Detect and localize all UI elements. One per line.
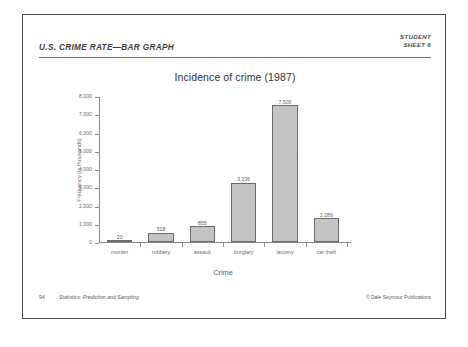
bar-value-label: 7,500 [278,99,291,105]
bar: 1,289 [314,218,340,242]
header-divider [39,57,431,58]
chart-title: Incidence of crime (1987) [39,71,431,83]
y-axis-tick-label: 5,000 [79,148,92,154]
x-axis-category-label: burglary [234,249,253,255]
bar: 3,236 [231,183,257,242]
bar-value-label: 3,236 [237,176,250,182]
x-axis-tick [264,243,265,247]
y-axis-tick-label: 8,000 [79,93,92,99]
bar-chart: Incidence of crime (1987) Frequency (in … [39,71,431,289]
y-axis-tick: 7,000 [95,115,99,116]
student-sheet-label: STUDENT SHEET 6 [400,33,431,49]
page-title: U.S. CRIME RATE—BAR GRAPH [39,43,174,52]
y-axis-tick: 3,000 [95,188,99,189]
x-axis-title: Crime [99,268,347,277]
x-axis-category-label: assault [194,249,211,255]
copyright-notice: © Dale Seymour Publications [366,294,431,300]
x-axis-tick [182,243,183,247]
y-axis-tick-label: 4,000 [79,166,92,172]
page-number: 94 [39,294,45,300]
y-axis-tick: 0 [95,243,99,244]
x-axis-category-label: larceny [276,249,293,255]
y-axis-tick: 1,000 [95,225,99,226]
plot-area: + 01,0002,0003,0004,0005,0006,0007,0008,… [99,97,347,243]
x-axis-category-label: car theft [317,249,336,255]
y-axis-line [99,97,100,243]
y-axis-tick-label: 7,000 [79,111,92,117]
y-axis-tick: 2,000 [95,207,99,208]
x-axis-tick [306,243,307,247]
y-axis-tick: 8,000 [95,97,99,98]
x-axis-category-label: murder [111,249,128,255]
bar-value-label: 855 [198,220,207,226]
y-axis-tick-label: 6,000 [79,130,92,136]
bar: 518 [148,233,174,242]
y-axis-tick-label: 3,000 [79,184,92,190]
x-axis-tick [347,243,348,247]
bar-value-label: 20 [117,234,123,240]
x-axis-tick [223,243,224,247]
y-axis-tick: 6,000 [95,134,99,135]
worksheet-page: U.S. CRIME RATE—BAR GRAPH STUDENT SHEET … [22,14,446,319]
x-axis-category-label: robbery [152,249,170,255]
bar-value-label: 518 [157,226,166,232]
student-sheet-line2: SHEET 6 [400,41,431,49]
book-title: Statistics: Prediction and Sampling [59,294,139,300]
student-sheet-line1: STUDENT [400,33,431,41]
bar: 20 [107,240,133,242]
bar-value-label: 1,289 [320,212,333,218]
sheet-footer: 94 Statistics: Prediction and Sampling ©… [39,294,431,304]
y-axis-tick-label: 2,000 [79,203,92,209]
y-axis-tick-label: 0 [89,239,92,245]
x-axis-tick [140,243,141,247]
y-axis-tick: 4,000 [95,170,99,171]
bar: 7,500 [272,105,298,242]
x-axis-line [99,242,351,243]
bar: 855 [190,226,216,242]
y-axis-tick: 5,000 [95,152,99,153]
sheet-header: U.S. CRIME RATE—BAR GRAPH STUDENT SHEET … [39,33,431,63]
y-axis-tick-label: 1,000 [79,221,92,227]
